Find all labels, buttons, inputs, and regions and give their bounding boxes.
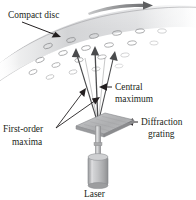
laser-top-cap <box>88 154 108 161</box>
central-maximum-pointer <box>99 83 112 91</box>
compact-disc-pointer <box>22 22 61 37</box>
label-diffraction-grating-line1: Diffraction <box>141 117 183 127</box>
laser-bottom-cap <box>88 183 108 189</box>
rod-shaft <box>95 126 101 158</box>
laser <box>88 154 108 189</box>
label-central-maximum-line2: maximum <box>115 94 154 104</box>
diffraction-grating <box>76 113 134 137</box>
label-central-maximum-line1: Central <box>115 82 143 92</box>
rod-collar <box>94 143 102 146</box>
physics-diagram-compact-disc-diffraction: Compact disc Central maximum Diffraction… <box>0 0 196 200</box>
label-laser: Laser <box>84 189 106 199</box>
label-first-order-line2: maxima <box>12 137 43 147</box>
label-diffraction-grating-line2: grating <box>148 129 175 139</box>
label-first-order-line1: First-order <box>3 124 44 134</box>
support-rod <box>94 126 102 158</box>
label-compact-disc: Compact disc <box>8 10 59 20</box>
diagram-canvas: Compact disc Central maximum Diffraction… <box>0 0 196 200</box>
